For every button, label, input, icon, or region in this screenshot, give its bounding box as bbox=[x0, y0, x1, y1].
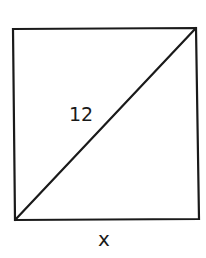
diagonal-line bbox=[15, 28, 196, 220]
square-diagram bbox=[0, 0, 206, 258]
diagonal-length-label: 12 bbox=[69, 105, 93, 124]
side-length-label: x bbox=[98, 229, 110, 249]
